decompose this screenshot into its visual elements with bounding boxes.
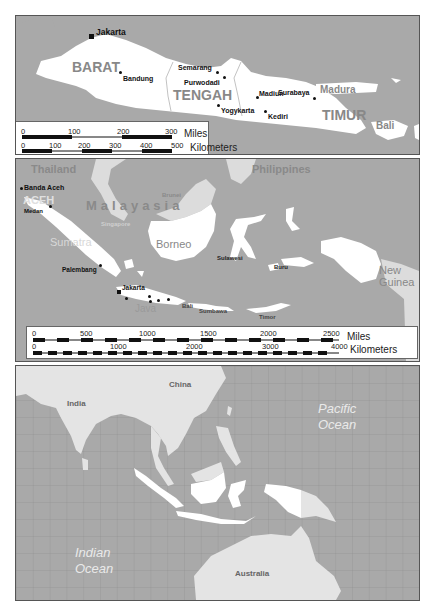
city-label-purwodadi: Purwodadi bbox=[184, 79, 220, 86]
scale-tick: 3000 bbox=[262, 342, 279, 351]
island-label-sulawesi: Sulawesi bbox=[217, 255, 243, 261]
island-label-sumbawa: Sumbawa bbox=[199, 308, 227, 314]
scale-bar-indonesia: 0 500 1000 1500 2000 2500 Miles 0 1000 2… bbox=[26, 326, 418, 359]
java-provinces-map: Jakarta BARAT Bandung Semarang Purwodadi… bbox=[15, 15, 420, 155]
scale-tick: 300 bbox=[165, 127, 178, 136]
ocean-label-pacific-line2: Ocean bbox=[318, 418, 356, 431]
city-label-kediri: Kediri bbox=[268, 113, 288, 120]
scale-bar-java: 0 100 200 300 Miles 0 100 200 300 400 50… bbox=[15, 121, 209, 155]
province-label-timur: TIMUR bbox=[322, 108, 366, 122]
city-label-semarang: Semarang bbox=[178, 64, 212, 71]
scale-unit-km: Kilometers bbox=[190, 142, 237, 153]
city-dot-icon bbox=[148, 295, 151, 298]
ocean-label-pacific-line1: Pacific bbox=[318, 402, 356, 415]
scale-tick: 400 bbox=[140, 141, 153, 150]
scale-unit-miles: Miles bbox=[347, 331, 370, 342]
city-label-yogykarta: Yogykarta bbox=[221, 107, 254, 114]
scale-unit-km: Kilometers bbox=[350, 344, 397, 355]
scale-unit-miles: Miles bbox=[184, 128, 207, 139]
island-label-bali: Bali bbox=[376, 121, 394, 131]
city-label-palembang: Palembang bbox=[62, 267, 97, 274]
scale-tick: 2500 bbox=[323, 329, 340, 338]
city-label-banda-aceh: Banda Aceh bbox=[24, 184, 64, 191]
capital-marker-icon bbox=[89, 34, 94, 39]
scale-tick: 100 bbox=[49, 141, 62, 150]
country-label-philippines: Philippines bbox=[252, 164, 311, 175]
scale-tick: 500 bbox=[80, 329, 93, 338]
city-dot-icon bbox=[313, 97, 316, 100]
scale-tick: 1500 bbox=[200, 329, 217, 338]
city-dot-icon bbox=[223, 76, 226, 79]
scale-tick: 1000 bbox=[139, 329, 156, 338]
city-label-bandung: Bandung bbox=[123, 75, 153, 82]
city-dot-icon bbox=[216, 71, 219, 74]
scale-tick: 200 bbox=[117, 127, 130, 136]
city-label-medan: Medan bbox=[24, 208, 43, 214]
city-dot-icon bbox=[125, 297, 128, 300]
island-label-timor: Timor bbox=[259, 314, 276, 320]
indonesia-map: Thailand Philippines Banda Aceh ACEH Med… bbox=[15, 158, 420, 362]
country-label-malaysia: Malayasia bbox=[86, 199, 183, 212]
city-label-madiun: Madiun bbox=[259, 90, 284, 97]
ocean-label-indian-line2: Ocean bbox=[75, 562, 113, 575]
island-label-borneo: Borneo bbox=[156, 239, 191, 250]
scale-tick: 2000 bbox=[260, 329, 277, 338]
island-label-sumatra: Sumatra bbox=[50, 237, 92, 248]
city-dot-icon bbox=[157, 299, 160, 302]
scale-tick: 2000 bbox=[186, 342, 203, 351]
city-label-jakarta: Jakarta bbox=[96, 28, 126, 37]
city-label-jakarta-2: Jakarta bbox=[122, 285, 145, 292]
scale-tick: 0 bbox=[21, 141, 25, 150]
island-label-new-guinea-line2: Guinea bbox=[379, 277, 414, 288]
country-label-singapore: Singapore bbox=[101, 221, 130, 227]
scale-tick: 200 bbox=[78, 141, 91, 150]
scale-tick: 500 bbox=[171, 141, 184, 150]
scale-tick: 300 bbox=[109, 141, 122, 150]
city-dot-icon bbox=[99, 264, 102, 267]
scale-tick: 100 bbox=[68, 127, 81, 136]
scale-tick: 4000 bbox=[331, 342, 348, 351]
scale-tick: 0 bbox=[21, 127, 25, 136]
scale-tick: 0 bbox=[32, 342, 36, 351]
country-label-australia: Australia bbox=[235, 570, 269, 578]
island-label-java: Java bbox=[135, 304, 156, 314]
island-label-new-guinea-line1: New bbox=[379, 265, 401, 276]
city-dot-icon bbox=[217, 104, 220, 107]
country-label-india: India bbox=[67, 400, 86, 408]
scale-tick: 0 bbox=[32, 329, 36, 338]
city-dot-icon bbox=[119, 71, 122, 74]
scale-tick: 1000 bbox=[110, 342, 127, 351]
country-label-brunei: Brunei bbox=[162, 192, 181, 198]
island-label-madura: Madura bbox=[320, 85, 356, 95]
province-label-tengah: TENGAH bbox=[173, 88, 232, 102]
city-dot-icon bbox=[20, 187, 23, 190]
country-label-china: China bbox=[169, 381, 191, 389]
island-label-buru: Buru bbox=[274, 264, 288, 270]
regional-locator-map: China India Pacific Ocean Indian Ocean A… bbox=[15, 365, 420, 601]
city-dot-icon bbox=[49, 205, 52, 208]
island-label-bali: Bali bbox=[182, 303, 193, 309]
city-dot-icon bbox=[264, 110, 267, 113]
city-dot-icon bbox=[167, 298, 170, 301]
capital-marker-icon bbox=[117, 290, 121, 294]
country-label-thailand: Thailand bbox=[31, 164, 76, 175]
ocean-label-indian-line1: Indian bbox=[75, 546, 110, 559]
province-label-barat: BARAT bbox=[72, 60, 120, 74]
